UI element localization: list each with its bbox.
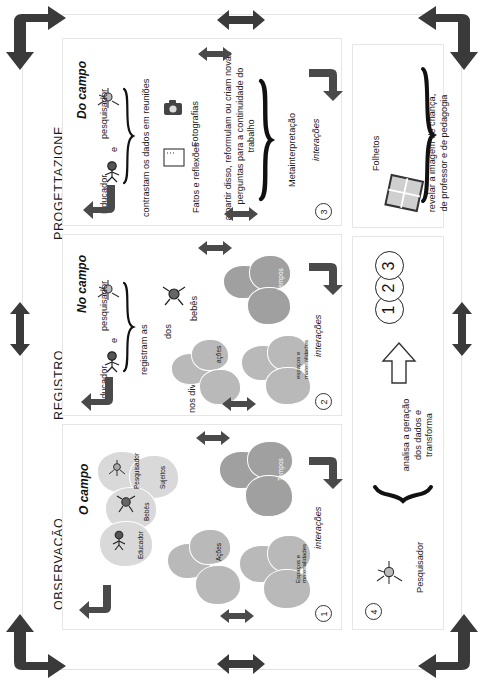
registro-brace — [121, 281, 137, 373]
panel2-elbow-right — [301, 251, 345, 297]
observacao-bubble-label-bebes: Bebês — [143, 503, 150, 521]
registro-actor-pesquisador: pesquisador — [99, 281, 111, 331]
panel-number-2: 2 — [315, 393, 332, 410]
progettazione-artifact-photos: Fotografias — [190, 101, 202, 147]
baby-figure-icon — [113, 491, 139, 515]
researcher-brace — [373, 483, 433, 505]
researcher-actor-label: Pesquisador — [415, 542, 427, 593]
progettazione-interactions-label: interações — [311, 119, 323, 161]
metainterpretation-brace — [257, 79, 275, 201]
edge-arrow-left — [6, 300, 34, 358]
edge-arrow-bottom — [215, 650, 267, 678]
hollow-up-arrow-icon — [381, 341, 417, 385]
diagram-canvas: PROGETTAZIONE REGISTRO OBSERVAÇÃO Do cam… — [0, 0, 482, 684]
bubble-acoes-2 — [191, 339, 229, 371]
panel1-arrow-top — [195, 429, 231, 447]
observacao-bubble-label-pesquisador: Pesquisador — [133, 453, 140, 489]
camera-icon — [161, 97, 185, 119]
observacao-bubble-label-tempos: Tempos — [277, 458, 284, 481]
panel-number-4: 4 — [365, 603, 382, 620]
panel3-arrow-bottom — [223, 205, 259, 223]
observacao-bubble-label-acoes: Ações — [215, 543, 222, 561]
bubble-tempos-b — [247, 441, 293, 479]
panel2-elbow-left — [79, 373, 123, 415]
panel-progettazione: Do campo Educador e pesquisador — [62, 38, 342, 226]
bubble-tempos-3 — [247, 287, 291, 325]
researcher-figure-icon — [371, 557, 407, 587]
panel-progettazione-subtitle: Do campo — [75, 61, 89, 119]
educator-figure-icon — [107, 527, 131, 551]
progettazione-brace-label: Metainterpretação — [287, 113, 299, 187]
panel3-elbow-left — [81, 181, 125, 223]
registro-conjunction: e — [109, 338, 121, 343]
observacao-bubble-label-espacos: Espaços e materialidades — [295, 549, 307, 583]
observacao-bubble-label-sujeitos: Sujeitos — [159, 466, 166, 489]
registro-bubble-label-tempos: Tempos — [277, 268, 285, 291]
target-number-3: 3 — [375, 251, 404, 280]
registro-bubble-label-acoes: ações — [215, 346, 223, 363]
registro-bubble-label-espacos: espaços e materialidades — [295, 349, 310, 379]
baby-figure-icon — [159, 281, 189, 309]
registro-interactions-label: interações — [313, 315, 325, 357]
researcher-action: analisa a geração dos dados e transforma — [401, 395, 436, 475]
progettazione-conjunction: e — [109, 147, 121, 152]
panel1-elbow-right — [301, 445, 347, 493]
panel-number-3: 3 — [315, 203, 332, 220]
panel3-elbow-right — [301, 57, 345, 103]
progettazione-verb: contrastam os dados em reuniões — [141, 79, 153, 217]
researcher-figure-icon — [105, 457, 129, 479]
panel1-arrow-bottom — [219, 607, 255, 625]
progettazione-actor-pesquisador: pesquisador — [99, 89, 111, 139]
bubble-acoes-b — [189, 529, 231, 565]
output-purpose: revelar a imagem de criança, de professo… — [427, 93, 450, 213]
panel-output: Folhetos revelar a imagem de criança, de… — [352, 44, 444, 228]
registro-line-bebes: bebês — [189, 296, 201, 321]
panel-observacao: O campo Pesquisador Sujeitos Bebês — [62, 424, 342, 630]
panel3-arrow-top — [197, 45, 233, 63]
bubble-tempos-c — [245, 475, 293, 517]
panel-researcher: 4 Pesquisador analisa a geração dos dado… — [352, 236, 444, 630]
registro-verb: registram as — [139, 324, 151, 375]
progettazione-outcome: a partir disso, reformulam ou criam nova… — [223, 51, 258, 221]
bubble-acoes-c — [195, 565, 241, 605]
progettazione-brace — [121, 87, 137, 185]
edge-arrow-top — [215, 6, 267, 34]
progettazione-artifact-notes: Fatos e reflexões — [191, 143, 203, 213]
panel-number-1: 1 — [315, 605, 332, 622]
panel2-arrow-top — [197, 239, 233, 257]
panel-registro: No campo Educador e pesquisador registra… — [62, 234, 342, 416]
output-artifact-label: Folhetos — [371, 136, 383, 171]
observacao-bubble-label-educador: Educador — [137, 531, 144, 559]
panel-observacao-subtitle: O campo — [77, 464, 91, 515]
note-page-icon — [161, 147, 187, 169]
observacao-interactions-label: interações — [313, 507, 325, 549]
registro-line-dos: dos — [163, 324, 175, 339]
panel2-arrow-bottom — [221, 395, 257, 413]
edge-arrow-right — [448, 300, 476, 358]
panel-registro-subtitle: No campo — [75, 255, 89, 313]
panel1-elbow-left — [77, 581, 123, 625]
